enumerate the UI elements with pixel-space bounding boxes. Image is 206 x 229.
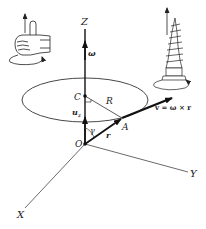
center-label: C (74, 92, 81, 102)
radius-label: R (105, 96, 113, 106)
unit-z-label: u z (72, 107, 81, 118)
velocity-formula: v = ω × r (154, 103, 191, 112)
rotation-diagram: Z Y X ω C R O A γ r u z v = ω × r (0, 0, 206, 229)
y-axis (85, 144, 188, 172)
omega-label: ω (88, 48, 96, 58)
point-a-label: A (121, 122, 129, 132)
angle-label: γ (90, 126, 95, 135)
screw-icon (154, 8, 189, 90)
unit-z-label-sub: z (77, 112, 81, 118)
z-axis-label: Z (80, 16, 89, 27)
position-label: r (106, 130, 111, 140)
y-axis-label: Y (190, 168, 198, 179)
x-axis (25, 144, 85, 208)
x-axis-label: X (16, 209, 25, 220)
right-angle-marker (85, 100, 91, 103)
radius-line (85, 96, 122, 118)
point-o (83, 142, 87, 146)
right-hand-rule-icon (9, 14, 50, 65)
point-c (83, 94, 87, 98)
origin-label: O (75, 139, 83, 149)
